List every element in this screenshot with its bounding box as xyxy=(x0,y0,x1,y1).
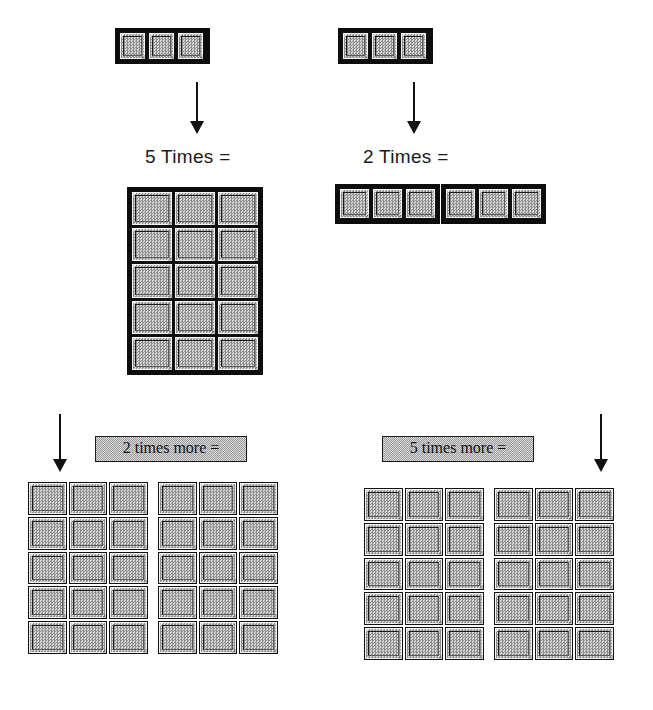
block xyxy=(405,627,444,660)
block xyxy=(239,482,278,515)
block xyxy=(158,586,197,619)
bottom-right-slab-b xyxy=(494,488,614,660)
block xyxy=(535,488,574,521)
block xyxy=(405,592,444,625)
block xyxy=(109,517,148,550)
block xyxy=(494,488,533,521)
block xyxy=(131,191,173,226)
block xyxy=(131,227,173,262)
block xyxy=(575,627,614,660)
block xyxy=(217,300,259,335)
block xyxy=(131,300,173,335)
block xyxy=(494,592,533,625)
block xyxy=(445,188,476,219)
block xyxy=(575,592,614,625)
three-block-rod xyxy=(335,184,440,224)
block xyxy=(28,482,67,515)
bottom-left-slab-a xyxy=(28,482,148,654)
block xyxy=(158,621,197,654)
block xyxy=(575,523,614,556)
block xyxy=(575,558,614,591)
block xyxy=(174,300,216,335)
five-times-label: 5 Times = xyxy=(145,146,231,168)
block xyxy=(364,523,403,556)
block xyxy=(400,32,427,60)
block xyxy=(372,188,403,219)
two-times-more-label: 2 times more = xyxy=(95,436,247,462)
block xyxy=(535,558,574,591)
block xyxy=(158,482,197,515)
block xyxy=(109,621,148,654)
block xyxy=(28,552,67,585)
block xyxy=(494,558,533,591)
block xyxy=(371,32,398,60)
block xyxy=(131,336,173,371)
five-times-more-label: 5 times more = xyxy=(382,436,534,462)
down-arrow-bottom-right xyxy=(593,414,609,472)
block xyxy=(28,517,67,550)
block xyxy=(445,488,484,521)
block xyxy=(239,621,278,654)
block xyxy=(445,592,484,625)
block xyxy=(158,552,197,585)
block xyxy=(535,592,574,625)
down-arrow-top-left xyxy=(189,82,205,134)
bottom-left-slab-b xyxy=(158,482,278,654)
block xyxy=(494,627,533,660)
block xyxy=(217,336,259,371)
block xyxy=(69,552,108,585)
down-arrow-bottom-left xyxy=(52,414,68,472)
block xyxy=(69,482,108,515)
block xyxy=(28,621,67,654)
block xyxy=(405,558,444,591)
block xyxy=(148,32,175,60)
block xyxy=(158,517,197,550)
block xyxy=(445,558,484,591)
block xyxy=(342,32,369,60)
block xyxy=(405,188,436,219)
block xyxy=(69,517,108,550)
block xyxy=(405,488,444,521)
block xyxy=(511,188,542,219)
block xyxy=(28,586,67,619)
three-block-rod xyxy=(441,184,546,224)
figure-canvas: 5 Times = 2 Times = xyxy=(0,0,653,710)
block xyxy=(339,188,370,219)
block xyxy=(109,586,148,619)
block xyxy=(364,592,403,625)
block xyxy=(364,488,403,521)
block xyxy=(69,621,108,654)
block xyxy=(131,263,173,298)
block xyxy=(239,586,278,619)
block xyxy=(445,627,484,660)
block xyxy=(199,552,238,585)
block xyxy=(364,558,403,591)
six-block-rod xyxy=(335,184,551,224)
block xyxy=(199,586,238,619)
two-times-label: 2 Times = xyxy=(363,146,449,168)
down-arrow-top-right xyxy=(406,82,422,134)
block xyxy=(109,482,148,515)
block xyxy=(405,523,444,556)
block xyxy=(535,523,574,556)
block xyxy=(174,336,216,371)
block xyxy=(174,191,216,226)
block xyxy=(109,552,148,585)
block xyxy=(239,552,278,585)
block xyxy=(217,191,259,226)
block xyxy=(445,523,484,556)
block xyxy=(199,621,238,654)
block xyxy=(199,482,238,515)
block xyxy=(575,488,614,521)
block xyxy=(364,627,403,660)
top-left-three-block-rod xyxy=(115,28,210,64)
block xyxy=(177,32,204,60)
bottom-right-slab-a xyxy=(364,488,484,660)
block xyxy=(478,188,509,219)
block xyxy=(494,523,533,556)
block xyxy=(535,627,574,660)
block xyxy=(217,263,259,298)
block xyxy=(119,32,146,60)
block xyxy=(239,517,278,550)
block xyxy=(69,586,108,619)
